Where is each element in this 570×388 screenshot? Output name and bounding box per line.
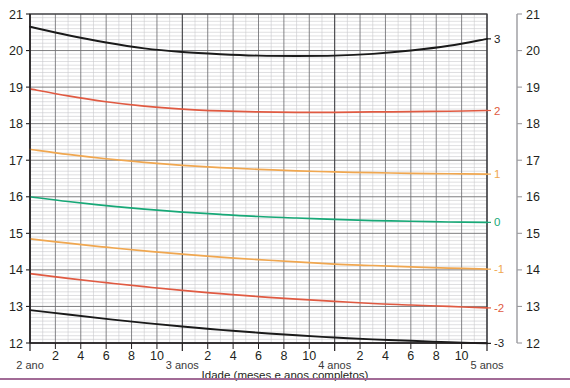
y-tick-left: 16 bbox=[9, 190, 23, 204]
x-tick-month: 8 bbox=[128, 349, 135, 363]
y-tick-right: 13 bbox=[526, 300, 540, 314]
y-tick-left: 12 bbox=[9, 337, 23, 351]
zscore-label-0: 0 bbox=[494, 216, 500, 228]
x-tick-month: 4 bbox=[77, 349, 84, 363]
x-tick-month: 2 bbox=[52, 349, 59, 363]
y-tick-left: 20 bbox=[9, 44, 23, 58]
y-tick-right: 20 bbox=[526, 44, 540, 58]
y-tick-left: 18 bbox=[9, 117, 23, 131]
y-tick-right: 18 bbox=[526, 117, 540, 131]
x-tick-month: 4 bbox=[382, 349, 389, 363]
x-tick-month: 10 bbox=[302, 349, 316, 363]
x-tick-month: 2 bbox=[204, 349, 211, 363]
x-tick-year: 2 ano bbox=[16, 359, 44, 371]
growth-chart-page: 21201918171615141312 2120191817161514131… bbox=[0, 0, 570, 388]
y-tick-right: 16 bbox=[526, 190, 540, 204]
footer-rule bbox=[0, 378, 570, 380]
y-tick-right: 15 bbox=[526, 227, 540, 241]
zscore-label-neg1: -1 bbox=[494, 263, 504, 275]
zscore-label-neg3: -3 bbox=[494, 337, 504, 349]
x-tick-month: 2 bbox=[357, 349, 364, 363]
x-tick-year: 5 anos bbox=[470, 359, 504, 371]
y-tick-left: 21 bbox=[9, 8, 23, 22]
x-tick-month: 10 bbox=[150, 349, 164, 363]
y-tick-left: 19 bbox=[9, 81, 23, 95]
y-tick-left: 17 bbox=[9, 154, 23, 168]
chart-background bbox=[0, 0, 570, 388]
zscore-label-2: 2 bbox=[494, 105, 500, 117]
x-tick-month: 6 bbox=[407, 349, 414, 363]
y-tick-right: 17 bbox=[526, 154, 540, 168]
bmi-for-age-chart: 21201918171615141312 2120191817161514131… bbox=[0, 0, 570, 388]
x-tick-month: 8 bbox=[433, 349, 440, 363]
y-tick-right: 12 bbox=[526, 337, 540, 351]
x-tick-month: 10 bbox=[455, 349, 469, 363]
y-tick-left: 14 bbox=[9, 263, 23, 277]
zscore-label-3: 3 bbox=[494, 33, 500, 45]
zscore-label-neg2: -2 bbox=[494, 302, 504, 314]
y-tick-right: 21 bbox=[526, 8, 540, 22]
x-tick-month: 6 bbox=[103, 349, 110, 363]
x-tick-year: 3 anos bbox=[166, 359, 200, 371]
y-tick-left: 13 bbox=[9, 300, 23, 314]
x-tick-month: 8 bbox=[280, 349, 287, 363]
zscore-label-1: 1 bbox=[494, 168, 500, 180]
x-tick-month: 6 bbox=[255, 349, 262, 363]
y-tick-left: 15 bbox=[9, 227, 23, 241]
x-tick-month: 4 bbox=[230, 349, 237, 363]
y-tick-right: 19 bbox=[526, 81, 540, 95]
y-tick-right: 14 bbox=[526, 263, 540, 277]
